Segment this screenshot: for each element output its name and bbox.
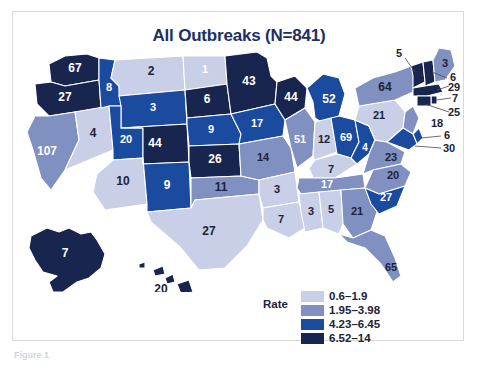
state-WY[interactable] <box>119 90 187 128</box>
state-NY[interactable] <box>355 66 417 106</box>
legend-label-1: 1.95–3.98 <box>329 304 380 316</box>
legend-swatch-0 <box>301 291 324 302</box>
state-label-NJ: 18 <box>431 117 443 129</box>
leader-line-RI <box>436 98 451 100</box>
leader-line-DE <box>421 136 441 138</box>
figure-frame: All Outbreaks (N=841) <box>12 11 464 341</box>
state-label-MA: 29 <box>448 81 460 93</box>
us-choropleth-map: 67 27 8 2 3 4 20 107 10 9 44 1 6 9 26 11… <box>13 42 465 292</box>
legend-swatch-1 <box>301 305 324 316</box>
legend-title: Rate <box>263 298 288 310</box>
state-label-MD: 30 <box>443 142 455 154</box>
state-SD[interactable] <box>185 84 231 118</box>
state-LA[interactable] <box>263 202 305 238</box>
state-AL[interactable] <box>319 190 343 234</box>
state-AZ[interactable] <box>93 158 147 210</box>
state-label-VT: 5 <box>396 47 402 59</box>
state-KS[interactable] <box>189 144 241 178</box>
state-HI[interactable] <box>139 262 193 292</box>
state-label-RI: 7 <box>452 92 458 104</box>
leader-line-CT <box>425 104 449 112</box>
state-label-CT: 25 <box>448 106 460 118</box>
state-FL[interactable] <box>339 230 401 282</box>
state-NM[interactable] <box>143 158 191 212</box>
legend-label-2: 4.23–6.45 <box>329 318 380 330</box>
state-label-HI: 20 <box>154 282 168 292</box>
state-CA[interactable] <box>27 112 79 190</box>
leader-line-MD <box>415 146 441 148</box>
legend-swatch-2 <box>301 319 324 330</box>
bottom-caption-fragment: Figure 1 <box>14 350 74 360</box>
state-AK[interactable] <box>29 228 105 292</box>
state-CT[interactable] <box>417 96 431 106</box>
legend-swatch-3 <box>301 333 324 344</box>
legend-label-3: 6.52–14 <box>329 332 371 344</box>
state-MN[interactable] <box>225 52 277 114</box>
legend-label-0: 0.6–1.9 <box>329 290 367 302</box>
state-label-DE: 6 <box>444 129 450 141</box>
state-MT[interactable] <box>111 56 185 96</box>
